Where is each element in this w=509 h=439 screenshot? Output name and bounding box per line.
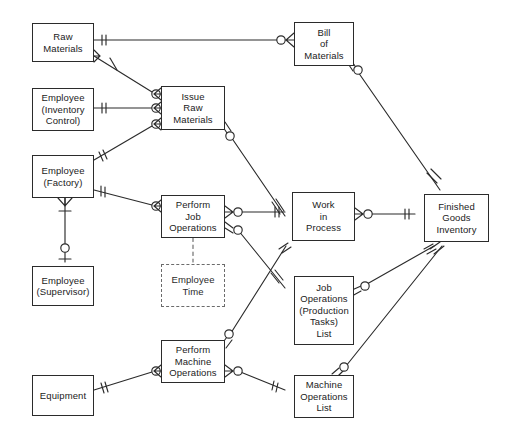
rel-machops-machlist <box>225 365 285 392</box>
rel-empfac-issue <box>94 118 161 161</box>
entity-issue-raw-materials[interactable]: Issue Raw Materials <box>161 86 225 130</box>
rel-issue-wip <box>221 122 285 216</box>
entity-equipment[interactable]: Equipment <box>32 375 94 416</box>
rel-equip-machops <box>94 365 161 393</box>
rel-empfac-jobops <box>94 186 161 212</box>
rel-empinv-issue <box>94 102 161 114</box>
entity-finished-goods-inventory[interactable]: Finished Goods Inventory <box>424 194 489 242</box>
entity-employee-inventory-control[interactable]: Employee (Inventory Control) <box>32 88 94 131</box>
erd-canvas: Raw Materials Employee (Inventory Contro… <box>0 0 509 439</box>
entity-job-operations-list[interactable]: Job Operations (Production Tasks) List <box>294 276 354 345</box>
entity-employee-supervisor[interactable]: Employee (Supervisor) <box>32 266 94 306</box>
rel-jobops-joblist <box>225 222 285 288</box>
rel-empfac-supervisor <box>58 198 72 262</box>
entity-employee-time[interactable]: Employee Time <box>161 264 225 307</box>
entity-perform-machine-operations[interactable]: Perform Machine Operations <box>161 340 225 383</box>
rel-bom-fgi <box>347 60 441 190</box>
entity-work-in-process[interactable]: Work in Process <box>292 192 355 241</box>
rel-rawmat-issue <box>94 50 161 100</box>
entity-employee-factory[interactable]: Employee (Factory) <box>32 155 94 198</box>
rel-machops-joblist <box>221 243 291 348</box>
entity-perform-job-operations[interactable]: Perform Job Operations <box>161 195 225 238</box>
entity-machine-operations-list[interactable]: Machine Operations List <box>294 375 354 418</box>
entity-bill-of-materials[interactable]: Bill of Materials <box>294 22 354 66</box>
entity-raw-materials[interactable]: Raw Materials <box>32 23 94 62</box>
rel-rawmat-bom <box>94 33 294 47</box>
rel-wip-fgi <box>355 208 415 220</box>
